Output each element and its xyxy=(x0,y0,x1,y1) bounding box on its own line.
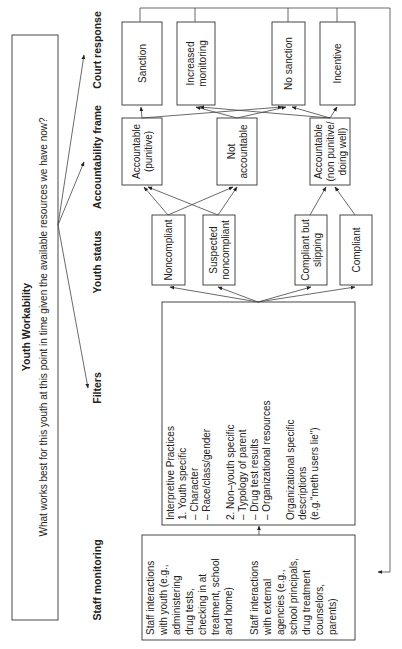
sanction-box-label: Sanction xyxy=(137,44,148,83)
arrow-punitive-to-sanction xyxy=(141,107,142,118)
accountable-punitive-box-label: (punitive) xyxy=(143,131,154,172)
interpretive-practices-box-line: descriptions xyxy=(297,467,308,520)
staff-monitoring-box: Staff interactionswith youth (e.g.,admin… xyxy=(142,535,355,640)
staff-monitoring-box-line: with external xyxy=(262,579,273,636)
no-sanction-box-label: No sanction xyxy=(283,37,294,90)
arrow-filters-to-slipping xyxy=(258,287,311,302)
staff-monitoring-box-line: drug tests, xyxy=(184,588,195,635)
compliant-but-slipping-box-label: slipping xyxy=(312,233,323,267)
accountable-non-punitive-box-label: Accountable xyxy=(313,124,324,179)
interpretive-practices-box-line: 2. Non–youth specific xyxy=(225,424,236,520)
interpretive-practices-box-line: – Typology of parent xyxy=(237,429,248,520)
incentive-box-label: Incentive xyxy=(332,43,343,83)
accountable-non-punitive-box-label: (non punitive/ xyxy=(325,121,336,181)
column-label-accountability-frame: Accountability frame xyxy=(91,105,103,209)
workability-question: What works best for this youth at this p… xyxy=(38,117,49,537)
arrow-suspected-to-not-accountable xyxy=(218,187,237,215)
staff-monitoring-box-line: counselors, xyxy=(314,584,325,635)
arrow-non-punitive-to-incentive xyxy=(330,107,337,118)
staff-monitoring-box-line: school principals, xyxy=(288,558,299,635)
staff-monitoring-box-line: with youth (e.g., xyxy=(158,564,169,636)
increased-monitoring-box: Increasedmonitoring xyxy=(177,22,215,105)
compliant-but-slipping-box-label: Compliant but xyxy=(300,219,311,281)
arrow-filters-to-noncompliant xyxy=(170,287,258,302)
sanction-box: Sanction xyxy=(122,22,162,105)
accountable-punitive-box: Accountable(punitive) xyxy=(122,118,162,185)
staff-monitoring-box-line: Staff interactions xyxy=(249,561,260,635)
compliant-but-slipping-box: Compliant butslipping xyxy=(295,215,327,285)
staff-monitoring-box-line: Staff interactions xyxy=(145,561,156,635)
noncompliant-box-label: Noncompliant xyxy=(163,219,174,280)
youth-workability-diagram: Youth Workability What works best for th… xyxy=(0,0,402,649)
interpretive-practices-box-line: – Drug test results xyxy=(249,439,260,520)
compliant-box-label: Compliant xyxy=(351,227,362,272)
arrow-filters-to-compliant xyxy=(258,287,355,302)
suspected-noncompliant-box-label: noncompliant xyxy=(220,220,231,280)
accountable-punitive-box-label: Accountable xyxy=(131,124,142,179)
interpretive-practices-box-line: – Organizational resources xyxy=(261,400,272,520)
interpretive-practices-box-line: Organizational specific xyxy=(285,419,296,520)
incentive-box: Incentive xyxy=(320,22,355,105)
arrow-filters-to-suspected xyxy=(218,287,258,302)
noncompliant-box: Noncompliant xyxy=(152,215,185,285)
interpretive-practices-box: Interpretive Practices1. Youth specific … xyxy=(162,302,355,525)
staff-monitoring-box-line: agencies (e.g., xyxy=(275,569,286,635)
interpretive-practices-box-line: – Character xyxy=(189,467,200,520)
column-label-youth-status: Youth status xyxy=(91,230,103,293)
workability-title: Youth Workability xyxy=(20,283,32,371)
suspected-noncompliant-box-label: Suspected xyxy=(208,226,219,273)
increased-monitoring-box-label: Increased xyxy=(185,42,196,86)
arrow-slipping-to-non-punitive xyxy=(310,187,326,215)
not-accountable-box-label: accountable xyxy=(238,124,249,178)
staff-monitoring-box-line: parents) xyxy=(327,598,338,635)
interpretive-practices-box-line: Interpretive Practices xyxy=(165,426,176,520)
interpretive-practices-box-line: – Race/class/gender xyxy=(201,428,212,520)
column-label-court-response: Court response xyxy=(91,11,103,89)
column-label-filters: Filters xyxy=(91,372,103,404)
accountable-non-punitive-box-label: doing well) xyxy=(337,128,348,176)
increased-monitoring-box-label: monitoring xyxy=(197,40,208,87)
staff-monitoring-box-line: treatment, school xyxy=(210,558,221,635)
staff-monitoring-box-line: and home) xyxy=(223,587,234,635)
interpretive-practices-box-line: (e.g."meth users lie") xyxy=(309,427,320,520)
staff-monitoring-box-line: drug treatment xyxy=(301,570,312,635)
workability-box: Youth Workability What works best for th… xyxy=(12,35,58,620)
not-accountable-box: Notaccountable xyxy=(217,118,257,185)
arrow-to-filters xyxy=(58,225,88,388)
column-label-staff-monitoring: Staff monitoring xyxy=(91,539,103,620)
arrow-to-court-response xyxy=(58,55,84,225)
arrow-to-accountability xyxy=(58,162,84,225)
accountable-non-punitive-box: Accountable(non punitive/doing well) xyxy=(310,118,350,185)
arrow-noncompliant-to-not-accountable xyxy=(168,187,233,215)
no-sanction-box: No sanction xyxy=(272,22,305,105)
interpretive-practices-box-line: 1. Youth specific xyxy=(177,448,188,520)
arrow-suspected-to-punitive xyxy=(148,187,218,215)
arrow-noncompliant-to-punitive xyxy=(144,187,168,215)
suspected-noncompliant-box: Suspectednoncompliant xyxy=(203,215,235,285)
staff-monitoring-box-line: administering xyxy=(171,576,182,635)
staff-monitoring-box-line: checking in at xyxy=(197,574,208,635)
compliant-box: Compliant xyxy=(340,215,372,285)
arrow-compliant-to-non-punitive xyxy=(335,187,355,215)
not-accountable-box-label: Not xyxy=(226,143,237,159)
